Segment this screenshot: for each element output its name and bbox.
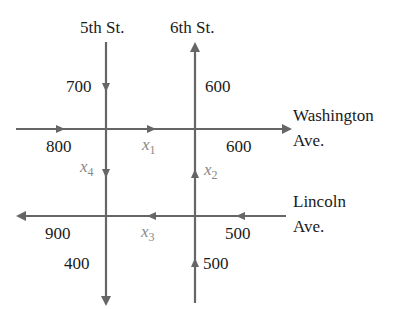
- washington-ave-label-line2: Ave.: [293, 131, 324, 150]
- washington-ave-label-line1: Washington: [293, 106, 374, 125]
- arrow-down-icon: [102, 83, 110, 92]
- variable-x4: x4: [79, 157, 94, 179]
- arrow-left-icon: [236, 212, 245, 220]
- flow-fifth-out-south: 400: [64, 254, 90, 273]
- variable-x2: x2: [203, 160, 218, 182]
- flow-sixth-out-north: 600: [205, 77, 231, 96]
- lincoln-ave-label-line2: Ave.: [293, 217, 324, 236]
- arrow-left-icon: [147, 212, 156, 220]
- arrow-down-icon: [101, 296, 111, 306]
- arrow-right-icon: [56, 125, 65, 133]
- variable-x1: x1: [141, 135, 156, 157]
- sixth-street-label: 6th St.: [170, 18, 214, 37]
- arrow-down-icon: [102, 169, 110, 178]
- arrow-up-icon: [191, 258, 199, 267]
- flow-lincoln-in-east: 500: [225, 224, 251, 243]
- fifth-street-label: 5th St.: [80, 18, 124, 37]
- lincoln-ave-label-line1: Lincoln: [293, 192, 346, 211]
- arrow-up-icon: [190, 42, 200, 52]
- flow-lincoln-out-west: 900: [45, 224, 71, 243]
- flow-washington-out-east: 600: [226, 137, 252, 156]
- flow-sixth-in-south: 500: [203, 254, 229, 273]
- variable-x3: x3: [140, 222, 155, 244]
- flow-fifth-in-north: 700: [66, 77, 92, 96]
- arrow-left-icon: [16, 211, 26, 221]
- arrow-up-icon: [191, 169, 199, 178]
- arrow-right-icon: [282, 124, 292, 134]
- flow-washington-in-west: 800: [46, 137, 72, 156]
- traffic-network-diagram: 5th St. 6th St. Washington Ave. Lincoln …: [0, 0, 404, 309]
- arrow-right-icon: [147, 125, 156, 133]
